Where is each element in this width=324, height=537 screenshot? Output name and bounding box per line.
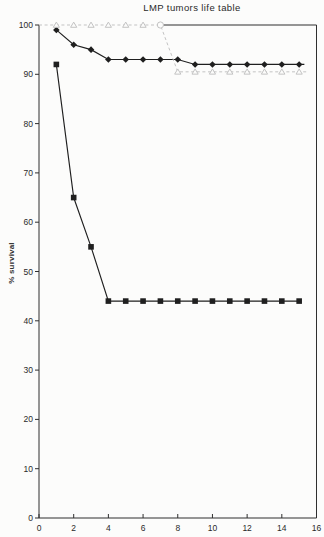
square-series-marker-square — [158, 298, 164, 304]
triangle-series-marker-triangle — [71, 22, 77, 27]
triangle-series-marker-triangle — [296, 69, 302, 74]
y-tick-label: 70 — [24, 168, 34, 178]
square-series-marker-square — [123, 298, 129, 304]
x-tick-label: 6 — [141, 523, 146, 533]
x-tick-label: 8 — [175, 523, 180, 533]
survival-line-chart: 01020304050607080901000246810121416 — [0, 0, 324, 537]
square-series-marker-square — [210, 298, 216, 304]
y-tick-label: 60 — [24, 217, 34, 227]
diamond-series-marker-diamond — [296, 61, 303, 68]
triangle-series-marker-triangle — [175, 69, 181, 74]
square-series-marker-square — [244, 298, 250, 304]
diamond-series-marker-diamond — [122, 56, 129, 63]
x-tick-label: 16 — [312, 523, 322, 533]
y-tick-label: 0 — [28, 513, 33, 523]
triangle-series-marker-circle — [157, 22, 163, 28]
x-tick-label: 0 — [37, 523, 42, 533]
y-axis-label: % survival — [7, 242, 16, 284]
square-series-marker-square — [296, 298, 302, 304]
square-series-marker-square — [106, 298, 112, 304]
square-series-marker-square — [192, 298, 198, 304]
chart-title: LMP tumors life table — [60, 2, 324, 13]
y-tick-label: 90 — [24, 69, 34, 79]
diamond-series-marker-diamond — [140, 56, 147, 63]
y-tick-label: 20 — [24, 414, 34, 424]
square-series-marker-square — [279, 298, 285, 304]
y-tick-label: 30 — [24, 365, 34, 375]
diamond-series-marker-diamond — [192, 61, 199, 68]
y-tick-label: 40 — [24, 316, 34, 326]
diamond-series-marker-diamond — [157, 56, 164, 63]
square-series-marker-square — [88, 244, 94, 250]
square-series-marker-square — [140, 298, 146, 304]
diamond-series-marker-diamond — [226, 61, 233, 68]
y-tick-label: 50 — [24, 267, 34, 277]
square-series-marker-square — [54, 62, 60, 68]
chart-canvas: LMP tumors life table % survival 0102030… — [0, 0, 324, 537]
diamond-series-marker-diamond — [105, 56, 112, 63]
plot-frame — [39, 25, 317, 518]
x-tick-label: 12 — [242, 523, 252, 533]
x-tick-label: 2 — [71, 523, 76, 533]
x-tick-label: 4 — [106, 523, 111, 533]
y-tick-label: 80 — [24, 119, 34, 129]
y-tick-label: 10 — [24, 464, 34, 474]
diamond-series-marker-diamond — [261, 61, 268, 68]
square-series-line — [56, 64, 301, 301]
diamond-series-marker-diamond — [244, 61, 251, 68]
diamond-series-marker-diamond — [88, 46, 95, 53]
x-tick-label: 10 — [208, 523, 218, 533]
square-series-marker-square — [175, 298, 181, 304]
square-series-marker-square — [262, 298, 268, 304]
diamond-series-marker-diamond — [279, 61, 286, 68]
triangle-series-marker-triangle — [88, 22, 94, 27]
square-series-marker-square — [71, 195, 77, 201]
diamond-series-marker-diamond — [209, 61, 216, 68]
triangle-series-marker-triangle — [279, 69, 285, 74]
y-tick-label: 100 — [19, 20, 33, 30]
square-series-marker-square — [227, 298, 233, 304]
x-tick-label: 14 — [277, 523, 287, 533]
diamond-series-marker-diamond — [174, 56, 181, 63]
